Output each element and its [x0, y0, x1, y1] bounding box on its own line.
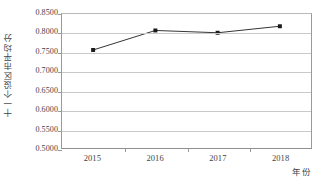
y-axis-tick-mark [58, 14, 62, 15]
x-axis-tick-label: 2016 [146, 153, 163, 163]
data-point-marker [153, 28, 157, 32]
y-axis-tick-label: 0.6500 [16, 87, 58, 95]
y-axis-tick-mark [58, 92, 62, 93]
gridline [62, 53, 311, 54]
y-axis-tick-label: 0.6000 [16, 106, 58, 114]
y-axis-title: 十一个设区市平均分 [2, 0, 16, 150]
y-axis-tick-mark [58, 111, 62, 112]
x-axis-tick-label: 2015 [84, 153, 101, 163]
x-axis-tick-label: 2018 [272, 153, 289, 163]
y-axis-tick-label: 0.7000 [16, 67, 58, 75]
y-axis-tick-mark [58, 33, 62, 34]
y-axis-tick-mark [58, 150, 62, 151]
x-axis-tick-mark [125, 148, 126, 152]
gridline [62, 72, 311, 73]
y-axis-title-label: 十一个设区市平均分 [5, 33, 14, 117]
x-axis-tick-label: 2017 [209, 153, 226, 163]
gridline [62, 92, 311, 93]
data-point-marker [278, 24, 282, 28]
gridline [62, 111, 311, 112]
x-axis-tick-mark [250, 148, 251, 152]
y-axis-tick-mark [58, 53, 62, 54]
y-axis-tick-mark [58, 72, 62, 73]
x-axis-tick-labels: 2015201620172018 [61, 153, 312, 167]
plot-area [61, 13, 312, 149]
y-axis-tick-label: 0.5500 [16, 126, 58, 134]
y-axis-tick-label: 0.7500 [16, 48, 58, 56]
gridline [62, 131, 311, 132]
y-axis-tick-label: 0.8500 [16, 9, 58, 17]
y-axis-tick-label: 0.8000 [16, 28, 58, 36]
x-axis-title: 年份 [292, 167, 311, 177]
y-axis-tick-mark [58, 131, 62, 132]
x-axis-tick-mark [188, 148, 189, 152]
line-chart: 十一个设区市平均分 0.85000.80000.75000.70000.6500… [0, 0, 327, 188]
y-axis-tick-labels: 0.85000.80000.75000.70000.65000.60000.55… [16, 9, 58, 149]
series-polyline [93, 26, 280, 50]
gridline [62, 33, 311, 34]
data-point-marker [91, 48, 95, 52]
y-axis-tick-label: 0.5000 [16, 145, 58, 153]
